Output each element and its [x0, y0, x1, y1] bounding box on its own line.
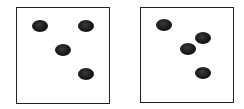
dot — [32, 20, 48, 32]
dot — [78, 68, 94, 80]
dot — [156, 19, 172, 31]
right-panel — [140, 7, 234, 103]
dot — [180, 43, 196, 55]
dot — [195, 67, 211, 79]
dot — [195, 32, 211, 44]
dot — [78, 20, 94, 32]
dot — [55, 44, 71, 56]
